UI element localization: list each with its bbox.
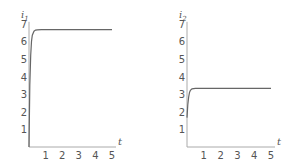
x-tick-label: 4	[251, 150, 257, 161]
charts-canvas: 123456712345i1t 123456712345i2t	[0, 0, 302, 168]
x-tick-label: 2	[59, 150, 65, 161]
x-tick-label: 5	[109, 150, 115, 161]
plot-i1: 123456712345i1t	[21, 9, 123, 161]
y-tick-label: 3	[179, 89, 185, 100]
x-axis-label: t	[277, 136, 282, 147]
y-tick-label: 4	[179, 72, 185, 83]
x-tick-label: 3	[76, 150, 82, 161]
x-tick-label: 2	[217, 150, 223, 161]
x-tick-label: 4	[92, 150, 98, 161]
x-tick-label: 3	[234, 150, 240, 161]
y-tick-label: 3	[21, 89, 27, 100]
x-tick-label: 5	[268, 150, 274, 161]
y-tick-label: 1	[21, 124, 27, 135]
series-line-i1	[29, 30, 112, 147]
x-tick-label: 1	[201, 150, 207, 161]
x-axis-label: t	[118, 136, 123, 147]
y-tick-label: 1	[179, 124, 185, 135]
y-tick-label: 6	[179, 36, 185, 47]
plot-i2: 123456712345i2t	[179, 9, 282, 161]
x-tick-label: 1	[42, 150, 48, 161]
series-line-i2	[187, 88, 271, 117]
y-tick-label: 2	[21, 107, 27, 118]
y-tick-label: 4	[21, 72, 27, 83]
y-tick-label: 6	[21, 36, 27, 47]
y-tick-label: 5	[179, 54, 185, 65]
y-tick-label: 2	[179, 107, 185, 118]
y-tick-label: 5	[21, 54, 27, 65]
